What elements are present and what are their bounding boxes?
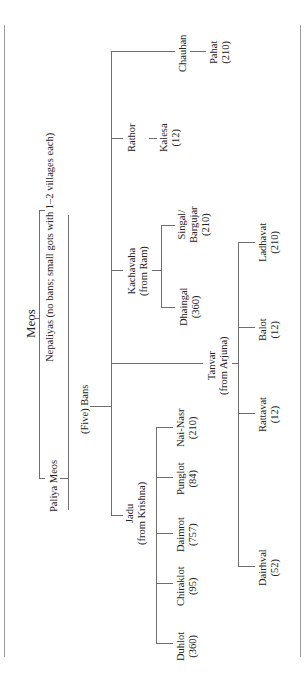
singal-bargujar-label: Singal/ Bargujar (210) [176,206,212,243]
singal-link [161,225,175,226]
chiraklot-link [156,583,173,584]
frame-right-rule [300,25,301,657]
kachavaha-stub [152,270,161,271]
tanvar-stub [232,363,238,364]
root-bracket [39,210,40,478]
kachavaha-branch [111,270,123,271]
rattavat-link [238,413,255,414]
rathor-branch [111,138,123,139]
rathor-child-link [149,138,157,139]
punglot-link [156,477,173,478]
duhlot-link [156,643,173,644]
dhaingal-label: Dhaingal (360) [178,288,202,327]
chauhan-branch [111,51,175,52]
tanvar-label: Tanvar (from Arjuna) [206,336,230,395]
paliya-stub [60,478,68,479]
nai-nasr-label: Nai-Nasr (210) [175,409,199,447]
daimrot-link [156,533,173,534]
nai-nasr-link [156,427,173,428]
root-label: Meos [24,309,38,338]
five-bans-stub [90,406,111,407]
tanvar-children-bar [238,242,239,566]
kachavaha-children-bar [161,225,162,308]
dhaingal-link [161,307,175,308]
kalesa-label: Kalesa (12) [158,123,182,152]
chauhan-label: Chauhan [177,35,189,72]
ladhavat-label: Ladhavat (210) [257,223,281,262]
paliya-branch [39,478,45,479]
chauhan-child-link [190,51,206,52]
duhlot-label: Duhlot (360) [175,632,199,661]
paliya-bracket [68,215,69,510]
frame-left-rule [4,25,5,657]
jadu-label: Jadu (from Krishna) [124,482,148,545]
balot-label: Balot (12) [257,318,281,341]
tanvar-branch [111,363,203,364]
dairhval-label: Dairhval (52) [257,549,281,586]
paliya-label: Paliya Meos [48,460,60,512]
pahat-label: Pahat (210) [208,41,232,64]
five-bans-label: (Five) Bans [79,385,91,434]
jadu-branch [111,515,123,516]
chiraklot-label: Chiraklot (95) [175,566,199,606]
punglot-label: Punglot (84) [175,462,199,495]
jadu-children-bar [156,427,157,644]
ladhavat-link [238,242,255,243]
rathor-label: Rathor [126,123,138,152]
kachavaha-label: Kachavaha (from Ram) [126,246,150,296]
daimrot-label: Daimrot (757) [175,517,199,552]
dairhval-link [238,566,255,567]
bans-trunk [111,51,112,516]
rattavat-label: Rattavat (12) [257,397,281,432]
balot-link [238,327,255,328]
nepaliyas-label: Nepaliyas (no bans; small gots with 1–2 … [44,133,56,362]
